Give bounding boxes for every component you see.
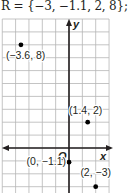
x-axis-label: x [99, 150, 107, 162]
coordinate-plane: y x O (−3.6, 8)(1.4, 2)(0, −1.1)(2, −3) [0, 0, 130, 193]
data-points: (−3.6, 8)(1.4, 2)(0, −1.1)(2, −3) [6, 42, 111, 189]
point-label: (0, −1.1) [27, 155, 66, 167]
data-point [85, 120, 90, 125]
y-axis-label: y [72, 18, 80, 30]
point-label: (2, −3) [80, 166, 111, 178]
point-label: (−3.6, 8) [6, 49, 45, 61]
data-point [19, 42, 24, 47]
data-point [67, 160, 72, 165]
data-point [93, 184, 98, 189]
x-axis-right-arrow-icon [106, 145, 113, 151]
y-axis-up-arrow-icon [66, 19, 72, 26]
x-axis-left-arrow-icon [2, 145, 9, 151]
point-label: (1.4, 2) [69, 104, 102, 116]
